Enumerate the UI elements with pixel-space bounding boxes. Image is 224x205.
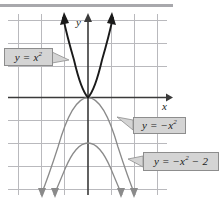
x-axis-label: x (161, 100, 167, 112)
callout-label-y-equals-neg-x-squared-minus-2[interactable]: y = −x2 − 2 (143, 152, 219, 171)
math-figure: x y y = x2 y = −x2 (0, 0, 224, 205)
callout-tails (52, 52, 143, 167)
x-axis-arrowhead (166, 94, 173, 102)
y-axis-arrowhead (84, 13, 92, 22)
coordinate-plane: x y (0, 0, 224, 205)
callout-label-y-equals-x-squared[interactable]: y = x2 (4, 48, 53, 66)
callout-3-tail (128, 156, 143, 167)
y-axis-label: y (75, 16, 81, 28)
callout-1-tail (52, 52, 69, 63)
callout-2-text: y = −x2 (142, 120, 177, 131)
callout-3-text: y = −x2 − 2 (154, 156, 208, 167)
callout-2-tail (117, 117, 133, 130)
callout-label-y-equals-neg-x-squared[interactable]: y = −x2 (133, 117, 186, 134)
callout-1-text: y = x2 (15, 52, 42, 63)
